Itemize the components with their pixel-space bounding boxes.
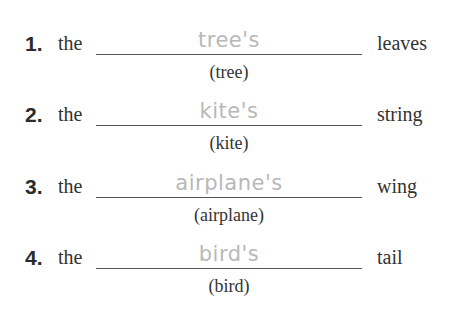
hint-word: (kite) [96,133,362,154]
item-suffix: tail [377,246,403,269]
item-number: 3. [25,175,43,199]
exercise-item-3: 3. the airplane's (airplane) wing [0,153,463,223]
answer-text: airplane's [96,171,362,195]
answer-text: bird's [96,242,362,266]
answer-blank-line[interactable] [96,268,362,269]
answer-blank-line[interactable] [96,125,362,126]
hint-word: (airplane) [96,205,362,226]
item-number: 2. [25,103,43,127]
item-suffix: string [377,103,423,126]
answer-blank-line[interactable] [96,197,362,198]
hint-word: (tree) [96,62,362,83]
answer-text: tree's [96,28,362,52]
hint-word: (bird) [96,276,362,297]
exercise-item-4: 4. the bird's (bird) tail [0,224,463,294]
item-prefix: the [58,175,82,198]
answer-blank-line[interactable] [96,54,362,55]
item-suffix: leaves [377,32,427,55]
exercise-item-2: 2. the kite's (kite) string [0,81,463,151]
item-number: 1. [25,32,43,56]
exercise-item-1: 1. the tree's (tree) leaves [0,10,463,80]
item-suffix: wing [377,175,417,198]
answer-text: kite's [96,99,362,123]
item-prefix: the [58,103,82,126]
item-prefix: the [58,246,82,269]
item-prefix: the [58,32,82,55]
item-number: 4. [25,246,43,270]
